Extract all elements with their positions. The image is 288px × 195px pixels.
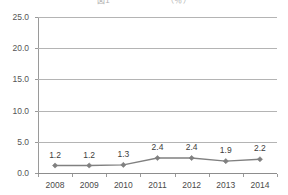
data-point-marker	[257, 157, 262, 162]
y-tick-label: 10.0	[0, 106, 29, 116]
data-point-marker	[189, 155, 194, 160]
y-tick-label: 5.0	[0, 137, 29, 147]
x-tick-mark	[209, 174, 210, 177]
data-point-marker	[121, 162, 126, 167]
x-tick-label: 2014	[240, 180, 280, 190]
data-point-marker	[87, 163, 92, 168]
x-tick-mark	[140, 174, 141, 177]
gridline	[38, 173, 277, 174]
plot-area: 0.05.010.015.020.025.0 20082009201020112…	[38, 17, 277, 173]
y-tick-label: 0.0	[0, 168, 29, 178]
chart-title: 図1 （％）	[0, 0, 288, 5]
y-tick-label: 20.0	[0, 43, 29, 53]
x-tick-mark	[243, 174, 244, 177]
x-tick-mark	[106, 174, 107, 177]
y-tick-label: 25.0	[0, 12, 29, 22]
x-tick-mark	[175, 174, 176, 177]
data-point-label: 2.2	[240, 143, 280, 153]
y-tick-label: 15.0	[0, 74, 29, 84]
x-tick-mark	[277, 174, 278, 177]
x-tick-mark	[72, 174, 73, 177]
data-point-marker	[155, 155, 160, 160]
x-tick-mark	[38, 174, 39, 177]
line-chart: 図1 （％） 0.05.010.015.020.025.0 2008200920…	[0, 0, 288, 195]
data-point-marker	[52, 163, 57, 168]
data-point-marker	[223, 159, 228, 164]
